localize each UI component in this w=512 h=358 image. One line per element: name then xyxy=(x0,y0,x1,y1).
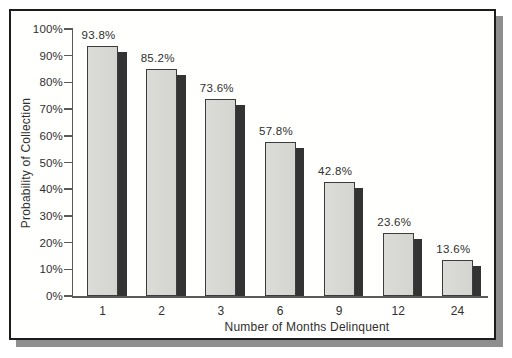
y-tick-label: 40% xyxy=(17,182,63,196)
y-tick-label: 60% xyxy=(17,129,63,143)
bar xyxy=(87,46,118,296)
bar xyxy=(265,142,296,296)
y-tick-label: 20% xyxy=(17,236,63,250)
y-tick-label: 10% xyxy=(17,262,63,276)
y-tick xyxy=(64,108,72,110)
y-tick-label: 90% xyxy=(17,49,63,63)
bar-value-label: 23.6% xyxy=(364,215,424,229)
y-tick xyxy=(64,215,72,217)
y-tick xyxy=(64,162,72,164)
x-tick-label: 9 xyxy=(314,304,364,318)
x-tick-label: 12 xyxy=(373,304,423,318)
bar-value-label: 93.8% xyxy=(69,28,129,42)
y-tick-label: 30% xyxy=(17,209,63,223)
bar-shadow xyxy=(414,239,423,296)
x-tick-label: 1 xyxy=(78,304,128,318)
bar-shadow xyxy=(355,188,364,296)
x-tick-label: 2 xyxy=(137,304,187,318)
y-axis-line xyxy=(72,28,74,297)
bar-shadow xyxy=(296,148,305,296)
bar-shadow xyxy=(236,105,245,296)
y-tick xyxy=(64,135,72,137)
y-tick-label: 80% xyxy=(17,75,63,89)
x-tick-label: 3 xyxy=(196,304,246,318)
bar xyxy=(205,99,236,296)
bar-value-label: 73.6% xyxy=(187,81,247,95)
bar-shadow xyxy=(177,75,186,296)
y-tick-label: 50% xyxy=(17,156,63,170)
x-axis-line xyxy=(72,296,488,298)
y-tick xyxy=(64,82,72,84)
plot-area: Probability of Collection Number of Mont… xyxy=(11,11,494,338)
x-axis-title: Number of Months Delinquent xyxy=(187,320,427,334)
y-tick xyxy=(64,188,72,190)
bar xyxy=(146,69,177,296)
bar-value-label: 57.8% xyxy=(246,124,306,138)
x-tick-label: 6 xyxy=(255,304,305,318)
bar xyxy=(383,233,414,296)
y-tick-label: 0% xyxy=(17,289,63,303)
y-tick xyxy=(64,242,72,244)
bar-value-label: 85.2% xyxy=(128,51,188,65)
bar-value-label: 13.6% xyxy=(423,242,483,256)
y-tick xyxy=(64,55,72,57)
x-tick-label: 24 xyxy=(432,304,482,318)
y-tick-label: 70% xyxy=(17,102,63,116)
bar xyxy=(324,182,355,296)
y-tick xyxy=(64,295,72,297)
chart-frame: Probability of Collection Number of Mont… xyxy=(9,9,496,340)
bar-shadow xyxy=(118,52,127,296)
y-tick-label: 100% xyxy=(17,22,63,36)
y-tick xyxy=(64,269,72,271)
bar xyxy=(442,260,473,296)
bar-value-label: 42.8% xyxy=(305,164,365,178)
bar-shadow xyxy=(473,266,482,296)
